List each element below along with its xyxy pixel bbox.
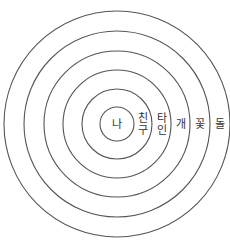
concentric-circles-diagram: 나친구타인개꽃돌 (0, 0, 230, 249)
layer-label-text: 구 (138, 124, 148, 137)
layer-label-text: 꽃 (195, 118, 205, 131)
labels-group: 나친구타인개꽃돌 (112, 112, 225, 137)
layer-label-3: 타인 (157, 112, 167, 137)
layer-label-text: 나 (112, 118, 122, 131)
layer-label-1: 나 (112, 118, 122, 131)
layer-label-5: 꽃 (195, 118, 205, 131)
layer-label-2: 친구 (138, 112, 148, 137)
layer-label-text: 개 (176, 118, 186, 131)
layer-label-text: 인 (157, 124, 167, 137)
layer-label-text: 돌 (215, 118, 225, 131)
layer-label-6: 돌 (215, 118, 225, 131)
layer-label-4: 개 (176, 118, 186, 131)
